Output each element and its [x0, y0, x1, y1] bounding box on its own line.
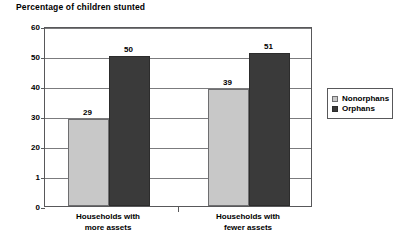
legend-item-nonorphans: Nonorphans	[332, 94, 388, 103]
bar-value-label: 29	[67, 108, 108, 117]
legend-label-orphans: Orphans	[342, 104, 375, 113]
y-axis-tick-label: 40	[31, 83, 40, 92]
y-axis-tick-mark	[41, 58, 45, 59]
bar-value-label: 50	[108, 45, 149, 54]
plot-area	[44, 27, 312, 207]
y-axis-tick-label: 1	[36, 173, 40, 182]
y-axis-tick-mark	[41, 28, 45, 29]
bar	[208, 89, 249, 206]
legend-label-nonorphans: Nonorphans	[342, 94, 389, 103]
legend-swatch-icon-nonorphans	[332, 96, 338, 102]
chart-legend: Nonorphans Orphans	[327, 88, 393, 119]
y-axis-tick-label: 20	[31, 143, 40, 152]
y-axis-tick-label: 30	[31, 113, 40, 122]
y-axis-tick-label: 60	[31, 23, 40, 32]
bar	[68, 119, 109, 206]
category-axis-label: Households with more assets	[47, 212, 169, 233]
legend-item-orphans: Orphans	[332, 104, 388, 113]
bar-chart: Percentage of children stunted 012030405…	[0, 0, 402, 247]
bar-value-label: 51	[248, 42, 289, 51]
y-axis-tick-mark	[41, 178, 45, 179]
category-axis-divider-tick	[178, 207, 179, 212]
y-axis-tick-mark	[41, 118, 45, 119]
gridline	[45, 28, 311, 29]
chart-title: Percentage of children stunted	[16, 2, 145, 12]
category-axis-label: Households with fewer assets	[187, 212, 309, 233]
bar	[109, 56, 150, 206]
y-axis-tick-mark	[41, 88, 45, 89]
bar-value-label: 39	[207, 78, 248, 87]
bar	[249, 53, 290, 206]
y-axis-tick-mark	[41, 148, 45, 149]
y-axis-tick-label: 50	[31, 53, 40, 62]
y-axis-tick-label: 0	[36, 203, 40, 212]
y-axis-tick-mark	[41, 208, 45, 209]
legend-swatch-icon-orphans	[332, 106, 338, 112]
